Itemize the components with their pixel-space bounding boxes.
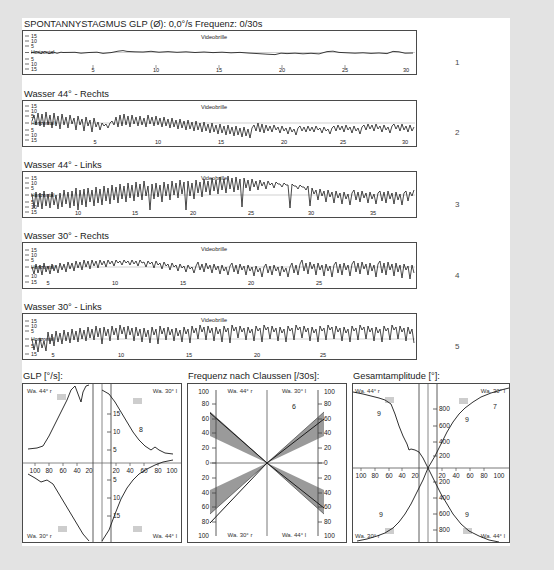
y-tick: 600	[439, 422, 450, 429]
trace-title-2: Wasser 44° - Rechts	[22, 88, 417, 100]
y-tick: 40	[324, 429, 332, 436]
value-top-right: 6	[292, 403, 296, 410]
panel-number-5: 5	[455, 342, 459, 351]
marker-bl	[385, 528, 394, 534]
y-tick: 100	[324, 388, 335, 395]
x-tick: 5	[51, 352, 54, 358]
x-tick: 30	[308, 210, 314, 216]
y-tick: 5	[31, 328, 34, 334]
y-tick: 40	[324, 489, 332, 496]
x-tick: 40	[452, 472, 460, 479]
marker-br	[463, 528, 472, 534]
y-tick: 5	[31, 257, 34, 263]
y-tick: 15	[113, 410, 121, 417]
x-tick: 80	[371, 472, 379, 479]
butterfly-glp: GLP [°/s]: 15 10 5	[22, 370, 182, 543]
quadrant-label-tr: Wa. 30° l	[282, 388, 306, 394]
trace-block-4: Wasser 30° - Rechts 15 10 5 Horizontal 1…	[22, 230, 417, 289]
x-tick: 10	[155, 139, 161, 145]
y-tick: 20	[202, 474, 210, 481]
marker-bl	[58, 526, 67, 532]
x-tick: 80	[154, 467, 162, 474]
x-tick: 20	[248, 280, 254, 286]
value-top-left: 9	[377, 410, 381, 417]
panel-number-2: 2	[455, 128, 459, 137]
y-tick: 5	[31, 43, 34, 49]
value-top-right-outer: 7	[493, 403, 497, 410]
trace-chart-3[interactable]: 15 10 5 Horizontal 5 10 15 Videobrille 1…	[22, 171, 417, 218]
videobrille-label: Videobrille	[201, 317, 227, 323]
x-tick: 35	[370, 210, 376, 216]
videobrille-label: Videobrille	[201, 104, 227, 110]
trace-block-2: Wasser 44° - Rechts 15 10 5 Horizontal 5…	[22, 88, 417, 147]
quadrant-label-br: Wa. 44° l	[153, 533, 177, 539]
butterfly-claussen-title: Frequenz nach Claussen [/30s]:	[187, 370, 347, 383]
y-tick: 60	[324, 503, 332, 510]
quadrant-label-tr: Wa. 30° l	[153, 388, 177, 394]
y-tick: 10	[113, 428, 121, 435]
butterfly-gesamtamplitude-title: Gesamtamplitude [°]:	[352, 370, 510, 383]
panel-number-1: 1	[455, 58, 459, 67]
x-tick: 40	[126, 467, 134, 474]
trace-title-3: Wasser 44° - Links	[22, 159, 417, 171]
panel-number-3: 3	[455, 200, 459, 209]
y-tick: 0	[205, 459, 209, 466]
butterfly-claussen-svg: 100 80 60 40 20 0 20 40 60 80 100 100	[188, 384, 346, 542]
trace-chart-2[interactable]: 15 10 5 Horizontal 5 10 15 Videobrille 5…	[22, 100, 417, 147]
x-tick: 20	[281, 139, 287, 145]
trace-block-5: Wasser 30° - Links 15 10 5 Horizontal 5 …	[22, 301, 417, 360]
x-tick: 25	[320, 352, 326, 358]
panel-number-4: 4	[455, 271, 459, 280]
y-tick: 80	[324, 518, 332, 525]
y-tick: 15	[31, 209, 37, 215]
y-tick: 600	[439, 510, 450, 517]
value-bottom-right: 9	[465, 511, 469, 518]
curve-tl	[353, 392, 428, 468]
y-tick: 60	[202, 503, 210, 510]
y-tick: 20	[324, 444, 332, 451]
butterfly-glp-box[interactable]: 15 10 5 5 10 15 100 80 60 40 20 20	[22, 383, 182, 543]
x-tick: 25	[340, 139, 346, 145]
value-top-right: 8	[139, 426, 143, 433]
butterfly-gesamtamplitude-box[interactable]: 800 600 400 200 200 400 600 800 100 80 6…	[352, 383, 510, 543]
x-tick: 20	[112, 467, 120, 474]
y-tick: 60	[324, 415, 332, 422]
x-tick: 10	[112, 280, 118, 286]
trace-chart-1[interactable]: 15 10 5 5 10 15 Horizontal Videobrille 5…	[22, 30, 417, 75]
value-top-right-inner: 9	[465, 416, 469, 423]
trace-chart-4[interactable]: 15 10 5 Horizontal 10 15 Videobrille 5 1…	[22, 242, 417, 289]
x-tick: 15	[218, 139, 224, 145]
y-tick: 15	[31, 137, 37, 143]
x-tick: 10	[118, 352, 124, 358]
butterfly-gesamtamplitude-svg: 800 600 400 200 200 400 600 800 100 80 6…	[353, 384, 509, 542]
x-tick: 30	[402, 139, 408, 145]
y-tick: 80	[324, 400, 332, 407]
x-tick: 15	[132, 210, 138, 216]
x-tick: 10	[75, 210, 81, 216]
x-tick: 30	[403, 67, 409, 73]
y-tick: 100	[198, 388, 209, 395]
y-tick: 40	[202, 489, 210, 496]
trace-svg-5: 15 10 5 Horizontal 5 15 Videobrille 5 10…	[23, 314, 416, 359]
trace-chart-5[interactable]: 15 10 5 Horizontal 5 15 Videobrille 5 10…	[22, 313, 417, 360]
videobrille-label: Videobrille	[201, 175, 227, 181]
y-tick: 800	[439, 405, 450, 412]
butterfly-claussen-box[interactable]: 100 80 60 40 20 0 20 40 60 80 100 100	[187, 383, 347, 543]
marker-tl	[57, 394, 66, 400]
y-tick: 80	[202, 518, 210, 525]
quadrant-label-tr: Wa. 30° l	[481, 388, 505, 394]
trace-svg-2: 15 10 5 Horizontal 5 10 15 Videobrille 5…	[23, 101, 416, 146]
y-tick: 5	[31, 185, 34, 191]
x-tick: 60	[385, 472, 393, 479]
x-tick: 20	[85, 467, 93, 474]
x-tick: 5	[46, 280, 49, 286]
butterfly-glp-title: GLP [°/s]:	[22, 370, 182, 383]
marker-tr	[459, 398, 468, 404]
trace-svg-4: 15 10 5 Horizontal 10 15 Videobrille 5 1…	[23, 243, 416, 288]
trace-title-4: Wasser 30° - Rechts	[22, 230, 417, 242]
y-tick: 5	[113, 446, 117, 453]
y-tick: 100	[324, 532, 335, 539]
y-tick: 200	[439, 452, 450, 459]
x-tick: 20	[190, 210, 196, 216]
x-tick: 60	[59, 467, 67, 474]
